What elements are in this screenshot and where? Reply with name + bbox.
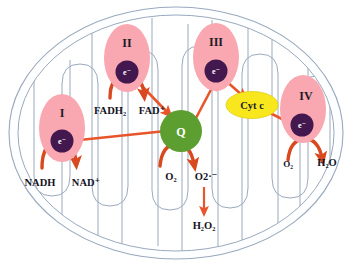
label-fad-plus: FAD⁺ [139,105,165,116]
complex-i-label: I [60,106,65,120]
label-h2o2: H₂O₂ [193,220,216,231]
label-superoxide: O2·⁻ [195,171,217,182]
ubiquinone-q[interactable]: Q [160,110,202,152]
complex-iii-label: III [209,35,223,49]
label-h2o: H₂O [317,157,336,168]
label-o2-ubiquinone: O₂ [165,171,176,182]
label-nadh: NADH [25,177,56,188]
etc-diagram: I e⁻ II e⁻ III e⁻ IV e⁻ Q [0,0,352,271]
complex-iv[interactable]: IV e⁻ [280,75,326,143]
complex-iv-label: IV [299,89,313,103]
complex-ii-label: II [122,36,132,50]
complex-iii[interactable]: III e⁻ [193,23,239,91]
complex-ii-electron-label: e⁻ [123,68,131,77]
complex-i[interactable]: I e⁻ [39,94,85,162]
ubiquinone-label: Q [176,125,185,139]
mitochondrion-diagram-canvas: I e⁻ II e⁻ III e⁻ IV e⁻ Q [0,0,352,271]
label-fadh2: FADH₂ [94,105,126,116]
complex-i-electron-label: e⁻ [58,137,66,146]
complex-iv-electron-label: e⁻ [298,121,306,130]
complex-iii-electron-label: e⁻ [212,67,220,76]
cytochrome-c-label: Cyt c [240,100,264,111]
complex-ii[interactable]: II e⁻ [104,24,150,92]
label-nad-plus: NAD⁺ [72,177,100,188]
label-o2-complexiv: O₂ [283,159,293,169]
cytochrome-c[interactable]: Cyt c [226,92,278,119]
